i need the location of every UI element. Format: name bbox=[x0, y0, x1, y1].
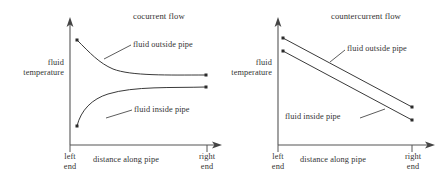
panel-title: countercurrent flow bbox=[331, 11, 401, 21]
marker-inside-start bbox=[76, 125, 79, 128]
figure-canvas: cocurrent flow fluid temperature fluid o… bbox=[0, 0, 447, 181]
annotation-fluid-inside-pipe: fluid inside pipe bbox=[134, 105, 190, 115]
marker-outside-start bbox=[76, 39, 79, 42]
marker-outside-start bbox=[282, 37, 285, 40]
marker-outside-end bbox=[205, 74, 208, 77]
x-axis-label: distance along pipe bbox=[93, 155, 159, 165]
y-axis-label-line2: temperature bbox=[216, 68, 272, 79]
x-tick-label-right-line1: right bbox=[398, 152, 428, 162]
leader-line-inside bbox=[106, 110, 132, 118]
y-axis-label-line1: fluid bbox=[0, 58, 64, 69]
curve-fluid-inside-pipe bbox=[283, 51, 412, 120]
x-tick-label-left-line1: left bbox=[264, 152, 292, 162]
leader-line-outside bbox=[104, 45, 131, 59]
x-tick-label-left-line2: end bbox=[264, 162, 292, 172]
marker-inside-end bbox=[205, 86, 208, 89]
x-tick-label-right-line2: end bbox=[192, 162, 222, 172]
marker-outside-end bbox=[411, 106, 414, 109]
panel-cocurrent-flow: cocurrent flow fluid temperature fluid o… bbox=[0, 0, 224, 181]
y-axis-label-line1: fluid bbox=[223, 58, 272, 69]
panel-countercurrent-flow: countercurrent flow fluid temperature fl… bbox=[223, 0, 447, 181]
marker-inside-start bbox=[282, 50, 285, 53]
x-axis-label: distance along pipe bbox=[300, 155, 366, 165]
annotation-fluid-outside-pipe: fluid outside pipe bbox=[133, 40, 193, 50]
x-tick-label-right-line1: right bbox=[192, 152, 222, 162]
y-axis-label-line2: temperature bbox=[0, 68, 64, 79]
leader-line-inside bbox=[360, 109, 385, 118]
annotation-fluid-inside-pipe: fluid inside pipe bbox=[285, 112, 341, 122]
x-tick-label-right-line2: end bbox=[398, 162, 428, 172]
marker-inside-end bbox=[411, 119, 414, 122]
cocurrent-plot-graphics bbox=[0, 0, 224, 181]
x-tick-label-left-line1: left bbox=[56, 152, 84, 162]
leader-line-outside bbox=[330, 50, 345, 62]
panel-title: cocurrent flow bbox=[133, 11, 185, 21]
x-tick-label-left-line2: end bbox=[56, 162, 84, 172]
annotation-fluid-outside-pipe: fluid outside pipe bbox=[347, 44, 407, 54]
